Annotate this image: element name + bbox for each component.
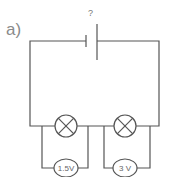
voltmeter-2-reading: 3 V: [119, 164, 132, 173]
wire-top-left: [30, 41, 86, 126]
circuit-diagram: 1.5V 3 V: [0, 0, 170, 177]
voltmeter-1-wire: [42, 126, 54, 168]
lamp-1-icon: [55, 115, 77, 137]
voltmeter-2-wire: [104, 126, 113, 168]
voltmeter-1-reading: 1.5V: [58, 164, 75, 173]
lamp-2-icon: [114, 115, 136, 137]
wire-top-right: [97, 41, 159, 126]
